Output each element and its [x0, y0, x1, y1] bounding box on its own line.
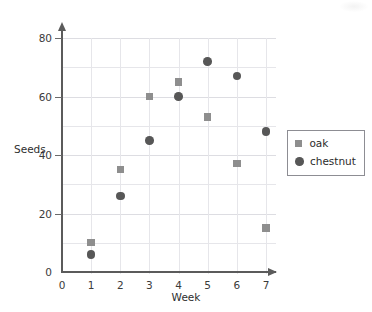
x-axis-title: Week — [0, 291, 372, 303]
y-tick-20 — [55, 214, 62, 215]
y-tick-60 — [55, 97, 62, 98]
data-point-chestnut-week-7 — [262, 127, 271, 136]
gridline-v-2 — [120, 38, 121, 274]
data-point-chestnut-week-6 — [233, 72, 242, 81]
scatter-plot-figure: 020406080 01234567 Seeds Week oak chestn… — [0, 0, 372, 312]
data-point-chestnut-week-3 — [145, 136, 154, 145]
x-tick-label: 6 — [225, 280, 249, 291]
x-tick-label: 7 — [254, 280, 278, 291]
plot-area — [62, 38, 266, 272]
legend-item-chestnut: chestnut — [295, 154, 358, 169]
legend-item-oak: oak — [295, 136, 358, 151]
gridline-h-60 — [62, 97, 276, 98]
data-point-oak-week-5 — [204, 113, 211, 120]
y-tick-label: 20 — [0, 209, 52, 220]
legend-item-label: chestnut — [310, 156, 356, 167]
data-point-chestnut-week-2 — [116, 192, 125, 201]
x-tick-label: 1 — [79, 280, 103, 291]
gridline-h-40 — [62, 155, 276, 156]
x-tick-label: 5 — [196, 280, 220, 291]
gridline-h-20 — [62, 214, 276, 215]
legend: oak chestnut — [287, 130, 365, 176]
square-marker-icon — [295, 140, 302, 147]
x-axis-line — [61, 271, 276, 273]
y-axis-arrow-icon — [58, 22, 66, 31]
y-tick-label-wrap: 60 — [0, 92, 52, 103]
gridline-v-5 — [208, 38, 209, 274]
y-tick-label: 60 — [0, 92, 52, 103]
gridline-h-80 — [62, 38, 276, 39]
data-point-chestnut-week-5 — [203, 57, 212, 66]
x-tick-label: 0 — [50, 280, 74, 291]
data-point-oak-week-3 — [146, 93, 153, 100]
data-point-chestnut-week-4 — [174, 92, 183, 101]
x-tick-label: 2 — [108, 280, 132, 291]
y-tick-80 — [55, 38, 62, 39]
data-point-oak-week-7 — [262, 224, 269, 231]
legend-item-label: oak — [309, 138, 328, 149]
y-tick-label: 80 — [0, 33, 52, 44]
y-axis-line — [61, 30, 63, 272]
gridline-v-3 — [149, 38, 150, 274]
x-tick-label: 3 — [137, 280, 161, 291]
gridline-h-50 — [62, 126, 276, 127]
gridline-v-4 — [179, 38, 180, 274]
page-artifact — [340, 1, 368, 12]
gridline-v-7 — [266, 38, 267, 274]
y-tick-40 — [55, 155, 62, 156]
data-point-oak-week-2 — [117, 166, 124, 173]
x-axis-arrow-icon — [268, 268, 277, 276]
data-point-chestnut-week-1 — [87, 250, 96, 259]
y-tick-label-wrap: 20 — [0, 209, 52, 220]
y-tick-label-wrap: 0 — [0, 267, 52, 278]
y-axis-title: Seeds — [14, 143, 46, 155]
data-point-oak-week-6 — [233, 160, 240, 167]
x-tick-label: 4 — [167, 280, 191, 291]
gridline-h-70 — [62, 67, 276, 68]
circle-marker-icon — [295, 157, 304, 166]
data-point-oak-week-1 — [87, 239, 94, 246]
y-tick-label: 0 — [0, 267, 52, 278]
data-point-oak-week-4 — [175, 78, 182, 85]
y-tick-label-wrap: 80 — [0, 33, 52, 44]
gridline-h-30 — [62, 184, 276, 185]
